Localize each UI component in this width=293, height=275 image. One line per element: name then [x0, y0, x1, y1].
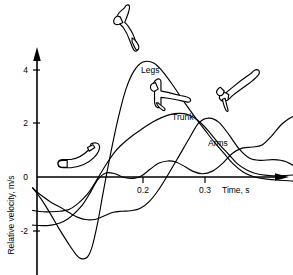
velocity-time-plot: 4 2 0 -2 0.2 0.3 Time, s Relative veloci… [0, 0, 293, 275]
y-tick-label-neg2: -2 [20, 226, 28, 236]
curve-arms [33, 116, 293, 226]
series-annotations-group: Legs Trunk Arms [141, 65, 228, 148]
series-label-legs: Legs [141, 65, 159, 75]
y-axis-title: Relative velocity, m/s [6, 175, 16, 254]
figurine-pose-mid-flight [150, 79, 190, 111]
figurine-pose-upright [217, 70, 260, 112]
x-axis-title: Time, s [222, 185, 250, 195]
series-label-trunk: Trunk [172, 112, 194, 122]
x-tick-label-0point3: 0.3 [199, 185, 211, 195]
chart-figure: 4 2 0 -2 0.2 0.3 Time, s Relative veloci… [0, 0, 293, 275]
figurine-pose-crouched-start [58, 143, 100, 168]
y-tick-label-0: 0 [23, 172, 28, 182]
y-axis-arrowhead [33, 47, 41, 61]
figurine-pose-extending [114, 5, 139, 51]
series-label-arms: Arms [208, 138, 228, 148]
y-tick-label-4: 4 [23, 65, 28, 75]
x-tick-label-0point2: 0.2 [137, 185, 149, 195]
curve-fourth [33, 118, 293, 220]
y-tick-label-2: 2 [23, 118, 28, 128]
